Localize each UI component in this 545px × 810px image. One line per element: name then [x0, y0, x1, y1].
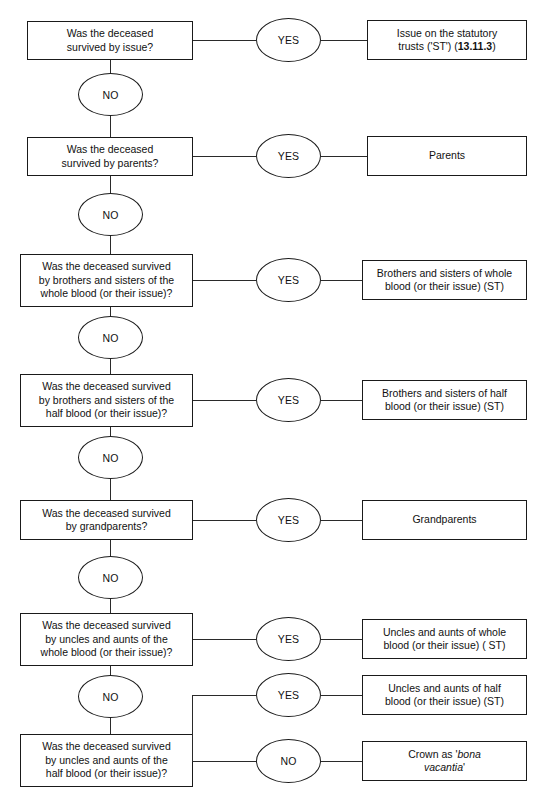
edge-yes-to-outcome-parents — [321, 156, 367, 157]
question-line-3: half blood (or their issue)? — [46, 407, 167, 419]
outcome-box-siblings-half[interactable]: Brothers and sisters of half blood (or t… — [362, 380, 527, 420]
question-line-2: by brothers and sisters of the — [39, 274, 174, 286]
outcome-line-2-post: ' — [463, 761, 465, 773]
edge-yes-to-outcome-uncles-whole — [321, 639, 362, 640]
decision-label: YES — [278, 689, 300, 701]
question-line-2: by grandparents? — [66, 520, 148, 532]
decision-label: YES — [278, 150, 300, 162]
edge-uncles-half-branch-riser — [192, 695, 193, 761]
outcome-box-crown[interactable]: Crown as 'bona vacantia' — [362, 741, 527, 781]
edge-q-uncles-whole-down — [110, 666, 111, 675]
decision-label: NO — [102, 452, 118, 464]
outcome-box-parents[interactable]: Parents — [367, 136, 527, 176]
edge-q-siblings-half-down — [110, 427, 111, 436]
flowchart-canvas: Was the deceased survived by issue? YES … — [0, 0, 545, 810]
decision-label: NO — [102, 209, 118, 221]
outcome-line-2-pre: trusts ('ST') ( — [398, 40, 457, 52]
outcome-line-2: blood (or their issue) (ST) — [385, 695, 504, 707]
outcome-box-uncles-whole[interactable]: Uncles and aunts of whole blood (or thei… — [362, 619, 527, 659]
decision-label: YES — [278, 514, 300, 526]
decision-no-siblings-whole[interactable]: NO — [78, 316, 143, 359]
question-line-2: by uncles and aunts of the — [45, 754, 168, 766]
outcome-box-uncles-half[interactable]: Uncles and aunts of half blood (or their… — [362, 675, 527, 715]
decision-label: NO — [102, 332, 118, 344]
edge-q-parents-down — [110, 176, 111, 193]
question-line-3: whole blood (or their issue)? — [41, 646, 173, 658]
edge-yes-to-outcome-issue — [321, 40, 367, 41]
edge-q-issue-to-yes — [193, 40, 256, 41]
question-line-1: Was the deceased survived — [42, 507, 171, 519]
question-line-2: survived by parents? — [62, 157, 159, 169]
decision-label: YES — [278, 274, 300, 286]
outcome-line-1: Parents — [429, 149, 465, 161]
edge-q-grandparents-down — [110, 540, 111, 556]
edge-q-siblings-whole-down — [110, 307, 111, 316]
outcome-line-2: blood (or their issue) ( ST) — [384, 639, 506, 651]
decision-yes-issue[interactable]: YES — [256, 18, 321, 62]
decision-yes-siblings-half[interactable]: YES — [256, 378, 321, 422]
question-line-1: Was the deceased survived — [42, 260, 171, 272]
question-line-1: Was the deceased survived — [42, 740, 171, 752]
question-line-3: half blood (or their issue)? — [46, 767, 167, 779]
outcome-box-grandparents[interactable]: Grandparents — [362, 500, 527, 540]
edge-no-uncles-whole-down — [110, 718, 111, 734]
decision-no-uncles-half[interactable]: NO — [256, 739, 321, 783]
decision-label: YES — [278, 34, 300, 46]
edge-q-uncles-whole-to-yes — [193, 639, 256, 640]
outcome-box-siblings-whole[interactable]: Brothers and sisters of whole blood (or … — [362, 260, 527, 300]
question-box-uncles-half[interactable]: Was the deceased survived by uncles and … — [20, 734, 193, 787]
edge-no-to-outcome-crown — [321, 761, 362, 762]
edge-no-issue-down — [110, 116, 111, 137]
question-box-siblings-half[interactable]: Was the deceased survived by brothers an… — [20, 374, 193, 427]
edge-yes-to-outcome-uncles-half — [321, 695, 362, 696]
edge-yes-to-outcome-siblings-whole — [321, 280, 362, 281]
question-box-siblings-whole[interactable]: Was the deceased survived by brothers an… — [20, 254, 193, 307]
decision-yes-siblings-whole[interactable]: YES — [256, 258, 321, 302]
edge-no-parents-down — [110, 236, 111, 254]
question-line-3: whole blood (or their issue)? — [41, 287, 173, 299]
outcome-box-issue[interactable]: Issue on the statutory trusts ('ST') (13… — [367, 20, 527, 60]
question-box-parents[interactable]: Was the deceased survived by parents? — [27, 137, 193, 176]
question-line-1: Was the deceased — [67, 143, 154, 155]
outcome-line-1: Brothers and sisters of whole — [377, 267, 512, 279]
edge-uncles-half-to-no — [192, 761, 256, 762]
outcome-line-1: Uncles and aunts of whole — [383, 626, 506, 638]
decision-label: NO — [102, 691, 118, 703]
question-line-2: by brothers and sisters of the — [39, 394, 174, 406]
decision-no-uncles-whole[interactable]: NO — [78, 675, 143, 718]
question-line-1: Was the deceased survived — [42, 619, 171, 631]
outcome-reference: 13.11.3 — [458, 40, 492, 52]
outcome-line-2-post: ) — [492, 40, 496, 52]
outcome-latin-term-1: bona — [457, 748, 480, 760]
decision-no-parents[interactable]: NO — [78, 193, 143, 236]
question-line-2: survived by issue? — [67, 41, 153, 53]
edge-no-siblings-whole-down — [110, 359, 111, 374]
question-line-2: by uncles and aunts of the — [45, 633, 168, 645]
decision-yes-parents[interactable]: YES — [256, 134, 321, 178]
decision-no-siblings-half[interactable]: NO — [78, 436, 143, 479]
question-box-issue[interactable]: Was the deceased survived by issue? — [27, 21, 193, 60]
decision-label: YES — [278, 394, 300, 406]
decision-yes-uncles-whole[interactable]: YES — [256, 617, 321, 661]
decision-label: YES — [278, 633, 300, 645]
decision-yes-grandparents[interactable]: YES — [256, 498, 321, 542]
outcome-line-1: Brothers and sisters of half — [382, 387, 507, 399]
decision-label: NO — [102, 89, 118, 101]
outcome-line-2: blood (or their issue) (ST) — [385, 400, 504, 412]
outcome-latin-term-2: vacantia — [424, 761, 463, 773]
edge-yes-to-outcome-grandparents — [321, 520, 362, 521]
edge-no-siblings-half-down — [110, 479, 111, 500]
question-line-1: Was the deceased survived — [42, 380, 171, 392]
decision-yes-uncles-half[interactable]: YES — [256, 673, 321, 717]
outcome-line-1: Issue on the statutory — [397, 27, 497, 39]
decision-no-grandparents[interactable]: NO — [78, 556, 143, 599]
question-box-uncles-whole[interactable]: Was the deceased survived by uncles and … — [20, 613, 193, 666]
outcome-line-1: Uncles and aunts of half — [388, 682, 501, 694]
edge-q-parents-to-yes — [193, 156, 256, 157]
edge-uncles-half-to-yes — [192, 695, 256, 696]
outcome-line-1-pre: Crown as ' — [408, 748, 457, 760]
decision-no-issue[interactable]: NO — [78, 73, 143, 116]
edge-q-issue-down — [110, 60, 111, 73]
question-line-1: Was the deceased — [67, 27, 154, 39]
question-box-grandparents[interactable]: Was the deceased survived by grandparent… — [20, 500, 193, 540]
